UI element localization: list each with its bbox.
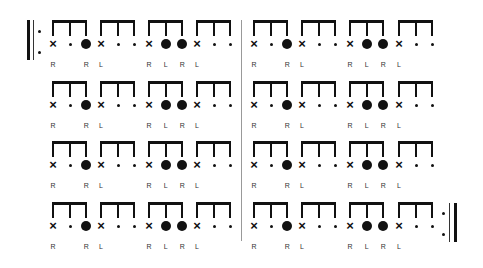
sticking-label: L bbox=[96, 182, 106, 190]
stem bbox=[318, 202, 320, 218]
stem bbox=[196, 202, 198, 218]
sticking-label: L bbox=[96, 243, 106, 251]
stem bbox=[382, 141, 384, 157]
stem bbox=[85, 202, 87, 218]
stem bbox=[398, 202, 400, 218]
sticking-label: L bbox=[362, 61, 372, 69]
stem bbox=[398, 141, 400, 157]
sticking-label: L bbox=[161, 61, 171, 69]
stem bbox=[100, 202, 102, 218]
ghost-dot-icon bbox=[431, 164, 434, 167]
cymbal-x-icon: × bbox=[144, 221, 154, 231]
stem bbox=[213, 141, 215, 157]
stem bbox=[253, 81, 255, 97]
stem bbox=[181, 141, 183, 157]
sticking-label: R bbox=[177, 243, 187, 251]
stem bbox=[334, 81, 336, 97]
sticking-label: R bbox=[249, 243, 259, 251]
sticking-label: R bbox=[345, 122, 355, 130]
stem bbox=[253, 20, 255, 36]
stem bbox=[69, 20, 71, 36]
cymbal-x-icon: × bbox=[394, 221, 404, 231]
accent-note-icon bbox=[81, 39, 91, 49]
cymbal-x-icon: × bbox=[192, 221, 202, 231]
accent-note-icon bbox=[362, 160, 372, 170]
sticking-label: R bbox=[249, 122, 259, 130]
stem bbox=[100, 81, 102, 97]
stem bbox=[366, 202, 368, 218]
repeat-dot-icon bbox=[442, 233, 445, 236]
ghost-dot-icon bbox=[117, 225, 120, 228]
ghost-dot-icon bbox=[318, 225, 321, 228]
stem bbox=[349, 141, 351, 157]
sticking-label: R bbox=[48, 122, 58, 130]
accent-note-icon bbox=[362, 100, 372, 110]
ghost-dot-icon bbox=[334, 164, 337, 167]
end-repeat-thin-bar bbox=[449, 203, 450, 242]
sticking-label: R bbox=[48, 182, 58, 190]
stem bbox=[148, 81, 150, 97]
sticking-label: L bbox=[297, 122, 307, 130]
stem bbox=[148, 141, 150, 157]
accent-note-icon bbox=[362, 39, 372, 49]
stem bbox=[181, 202, 183, 218]
cymbal-x-icon: × bbox=[249, 221, 259, 231]
stem bbox=[334, 202, 336, 218]
ghost-dot-icon bbox=[229, 104, 232, 107]
stem bbox=[415, 202, 417, 218]
accent-note-icon bbox=[177, 160, 187, 170]
stem bbox=[69, 81, 71, 97]
ghost-dot-icon bbox=[318, 43, 321, 46]
sticking-label: R bbox=[144, 122, 154, 130]
sticking-label: L bbox=[394, 243, 404, 251]
cymbal-x-icon: × bbox=[345, 221, 355, 231]
sticking-label: L bbox=[297, 182, 307, 190]
sticking-label: R bbox=[345, 182, 355, 190]
stem bbox=[334, 141, 336, 157]
stem bbox=[334, 20, 336, 36]
ghost-dot-icon bbox=[229, 225, 232, 228]
cymbal-x-icon: × bbox=[297, 221, 307, 231]
stem bbox=[301, 141, 303, 157]
accent-note-icon bbox=[282, 221, 292, 231]
cymbal-x-icon: × bbox=[249, 160, 259, 170]
ghost-dot-icon bbox=[270, 104, 273, 107]
stem bbox=[229, 202, 231, 218]
sticking-label: L bbox=[394, 122, 404, 130]
cymbal-x-icon: × bbox=[48, 100, 58, 110]
stem bbox=[286, 81, 288, 97]
ghost-dot-icon bbox=[133, 43, 136, 46]
stem bbox=[431, 81, 433, 97]
stem bbox=[100, 20, 102, 36]
accent-note-icon bbox=[378, 100, 388, 110]
stem bbox=[181, 81, 183, 97]
accent-note-icon bbox=[81, 100, 91, 110]
repeat-dot-icon bbox=[38, 51, 41, 54]
cymbal-x-icon: × bbox=[192, 39, 202, 49]
cymbal-x-icon: × bbox=[48, 221, 58, 231]
repeat-dot-icon bbox=[442, 212, 445, 215]
accent-note-icon bbox=[362, 221, 372, 231]
ghost-dot-icon bbox=[334, 225, 337, 228]
accent-note-icon bbox=[282, 100, 292, 110]
sticking-label: R bbox=[282, 61, 292, 69]
sticking-label: R bbox=[177, 122, 187, 130]
sticking-label: R bbox=[81, 122, 91, 130]
stem bbox=[431, 141, 433, 157]
ghost-dot-icon bbox=[318, 104, 321, 107]
drum-score: ×RR×L×RLR×L×RR×L×RLR×L×RR×L×RLR×L×RR×L×R… bbox=[0, 0, 483, 268]
ghost-dot-icon bbox=[415, 104, 418, 107]
stem bbox=[349, 81, 351, 97]
sticking-label: R bbox=[81, 182, 91, 190]
sticking-label: R bbox=[144, 243, 154, 251]
stem bbox=[196, 20, 198, 36]
cymbal-x-icon: × bbox=[297, 100, 307, 110]
stem bbox=[415, 20, 417, 36]
stem bbox=[431, 20, 433, 36]
sticking-label: L bbox=[362, 182, 372, 190]
cymbal-x-icon: × bbox=[394, 39, 404, 49]
stem bbox=[382, 81, 384, 97]
ghost-dot-icon bbox=[117, 104, 120, 107]
stem bbox=[196, 141, 198, 157]
sticking-label: L bbox=[161, 243, 171, 251]
